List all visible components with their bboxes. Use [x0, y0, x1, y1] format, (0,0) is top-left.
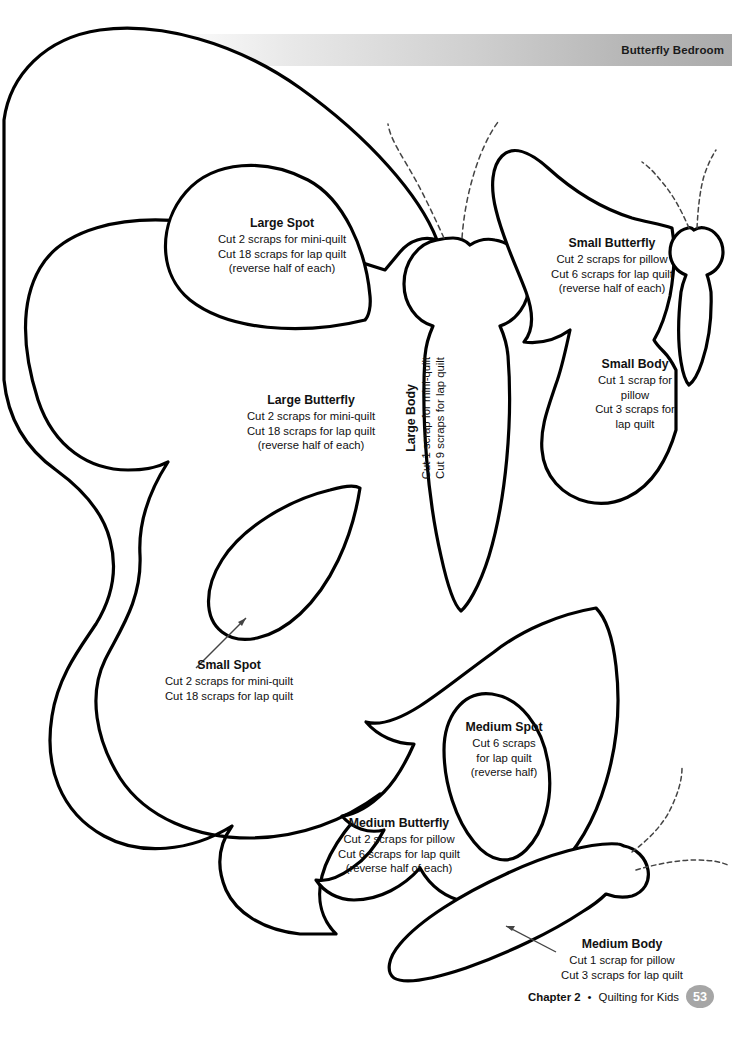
label-medium-body-title: Medium Body [531, 936, 713, 953]
page-footer: Chapter 2 • Quilting for Kids 53 [528, 985, 714, 1008]
label-small-spot: Small Spot Cut 2 scraps for mini-quilt C… [129, 657, 329, 703]
label-large-butterfly-line1: Cut 2 scraps for mini-quilt [213, 409, 409, 424]
label-small-body-line4: lap quilt [573, 417, 697, 432]
label-large-body-title: Large Body [404, 328, 419, 508]
label-large-spot-line2: Cut 18 scraps for lap quilt [184, 247, 380, 262]
label-large-butterfly: Large Butterfly Cut 2 scraps for mini-qu… [213, 392, 409, 453]
label-small-butterfly-line1: Cut 2 scraps for pillow [521, 252, 703, 267]
footer-separator-icon: • [588, 991, 592, 1003]
label-medium-body-line2: Cut 3 scraps for lap quilt [531, 968, 713, 983]
label-large-spot-line1: Cut 2 scraps for mini-quilt [184, 232, 380, 247]
footer-chapter-label: Chapter 2 [528, 991, 581, 1003]
label-small-spot-line1: Cut 2 scraps for mini-quilt [129, 674, 329, 689]
large-butterfly-wing-shape [4, 28, 437, 934]
butterfly-pattern-artwork [0, 0, 732, 1043]
label-small-body-line3: Cut 3 scraps for [573, 402, 697, 417]
label-medium-butterfly-line3: (reverse half of each) [309, 861, 489, 876]
label-medium-butterfly: Medium Butterfly Cut 2 scraps for pillow… [309, 815, 489, 876]
label-large-spot-line3: (reverse half of each) [184, 261, 380, 276]
label-medium-spot-line3: (reverse half) [440, 765, 568, 780]
medium-antenna-upper-icon [632, 768, 682, 852]
label-large-butterfly-line3: (reverse half of each) [213, 438, 409, 453]
small-butterfly-wing-shape [493, 151, 676, 504]
label-medium-spot-line2: for lap quilt [440, 751, 568, 766]
label-medium-spot-title: Medium Spot [440, 719, 568, 736]
label-medium-butterfly-title: Medium Butterfly [309, 815, 489, 832]
small-antenna-right-icon [697, 150, 716, 228]
page-number-badge: 53 [686, 985, 714, 1008]
label-large-butterfly-line2: Cut 18 scraps for lap quilt [213, 424, 409, 439]
label-small-spot-title: Small Spot [129, 657, 329, 674]
label-small-body-title: Small Body [573, 356, 697, 373]
label-large-body-line2: Cut 9 scraps for lap quilt [433, 328, 447, 508]
label-medium-spot-line1: Cut 6 scraps [440, 736, 568, 751]
label-small-spot-line2: Cut 18 scraps for lap quilt [129, 689, 329, 704]
label-small-butterfly: Small Butterfly Cut 2 scraps for pillow … [521, 235, 703, 296]
label-medium-body-line1: Cut 1 scrap for pillow [531, 953, 713, 968]
label-small-butterfly-title: Small Butterfly [521, 235, 703, 252]
label-medium-spot: Medium Spot Cut 6 scraps for lap quilt (… [440, 719, 568, 780]
small-antenna-left-icon [642, 162, 689, 228]
label-medium-body: Medium Body Cut 1 scrap for pillow Cut 3… [531, 936, 713, 982]
label-small-body-line2: pillow [573, 388, 697, 403]
label-small-body: Small Body Cut 1 scrap for pillow Cut 3 … [573, 356, 697, 431]
label-large-body: Large Body Cut 1 scrap for mini-quilt Cu… [404, 328, 464, 508]
label-large-spot-title: Large Spot [184, 215, 380, 232]
small-spot-shape [209, 486, 361, 639]
label-medium-butterfly-line1: Cut 2 scraps for pillow [309, 832, 489, 847]
label-medium-butterfly-line2: Cut 6 scraps for lap quilt [309, 847, 489, 862]
label-large-body-line1: Cut 1 scrap for mini-quilt [419, 328, 433, 508]
footer-book-title: Quilting for Kids [599, 991, 679, 1003]
label-small-body-line1: Cut 1 scrap for [573, 373, 697, 388]
pattern-page: Butterfly Bedroom [0, 0, 732, 1043]
label-large-butterfly-title: Large Butterfly [213, 392, 409, 409]
label-small-butterfly-line2: Cut 6 scraps for lap quilt [521, 267, 703, 282]
medium-antenna-lower-icon [636, 860, 730, 870]
label-small-butterfly-line3: (reverse half of each) [521, 281, 703, 296]
label-large-spot: Large Spot Cut 2 scraps for mini-quilt C… [184, 215, 380, 276]
